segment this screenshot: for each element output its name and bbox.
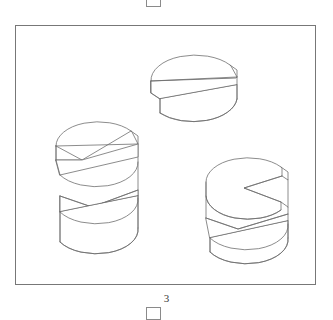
crop-mark-bottom-icon xyxy=(146,307,161,320)
figure-frame xyxy=(15,25,316,285)
crop-mark-top-icon xyxy=(146,0,161,7)
figure-caption: 3 xyxy=(0,292,333,305)
